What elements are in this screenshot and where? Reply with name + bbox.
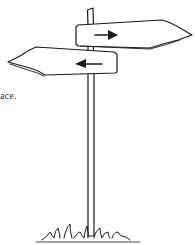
lower-sign [8,47,117,76]
upper-sign [76,20,192,49]
signpost-illustration [0,0,195,245]
